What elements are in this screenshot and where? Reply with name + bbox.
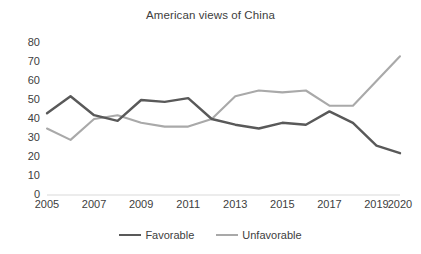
x-tick-label: 2020 bbox=[380, 199, 420, 210]
legend-item-unfavorable: Unfavorable bbox=[216, 229, 301, 241]
x-tick-label: 2011 bbox=[168, 199, 208, 210]
y-tick-label: 10 bbox=[14, 170, 40, 181]
chart-container: American views of China 0102030405060708… bbox=[0, 0, 421, 254]
legend-item-favorable: Favorable bbox=[119, 229, 194, 241]
y-tick-label: 30 bbox=[14, 132, 40, 143]
x-tick-label: 2009 bbox=[121, 199, 161, 210]
x-tick-label: 2017 bbox=[309, 199, 349, 210]
line-series-unfavorable bbox=[47, 56, 400, 140]
chart-legend: Favorable Unfavorable bbox=[0, 229, 421, 241]
legend-swatch-unfavorable-icon bbox=[216, 234, 238, 236]
y-tick-label: 80 bbox=[14, 37, 40, 48]
y-tick-label: 20 bbox=[14, 151, 40, 162]
legend-swatch-favorable-icon bbox=[119, 234, 141, 236]
x-tick-label: 2015 bbox=[262, 199, 302, 210]
x-tick-label: 2005 bbox=[27, 199, 67, 210]
x-tick-label: 2013 bbox=[215, 199, 255, 210]
y-tick-label: 50 bbox=[14, 94, 40, 105]
y-tick-label: 40 bbox=[14, 113, 40, 124]
legend-label-unfavorable: Unfavorable bbox=[242, 229, 301, 241]
legend-label-favorable: Favorable bbox=[145, 229, 194, 241]
y-tick-label: 60 bbox=[14, 75, 40, 86]
x-tick-label: 2007 bbox=[74, 199, 114, 210]
y-tick-label: 70 bbox=[14, 56, 40, 67]
plot-area bbox=[0, 0, 421, 254]
